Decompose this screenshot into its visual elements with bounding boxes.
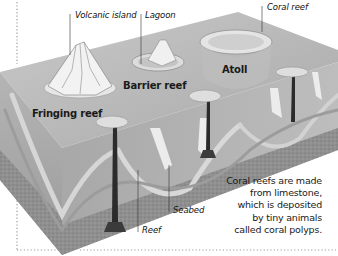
label-atoll: Atoll <box>222 64 247 75</box>
label-seabed: Seabed <box>173 205 204 215</box>
caption-line: which is deposited <box>226 199 322 211</box>
label-lagoon: Lagoon <box>145 10 176 20</box>
label-coral-reef: Coral reef <box>267 2 308 12</box>
label-volcanic-island: Volcanic island <box>75 10 137 20</box>
label-fringing-reef: Fringing reef <box>32 108 102 119</box>
caption-line: from limestone, <box>226 187 322 199</box>
label-barrier-reef: Barrier reef <box>123 80 186 91</box>
atoll <box>200 30 272 89</box>
caption-line: by tiny animals <box>226 212 322 224</box>
caption-text: Coral reefs are made from limestone, whi… <box>226 175 322 236</box>
caption-line: called coral polyps. <box>226 224 322 236</box>
caption-line: Coral reefs are made <box>226 175 322 187</box>
label-reef: Reef <box>142 225 161 235</box>
